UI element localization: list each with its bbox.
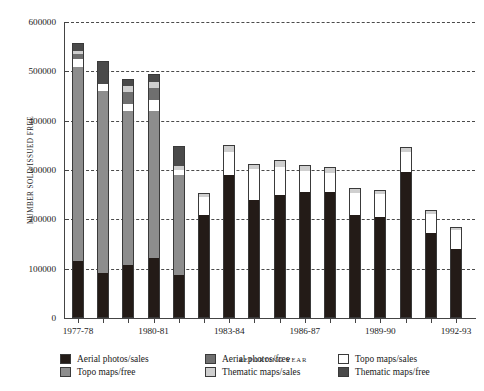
x-tick-mark xyxy=(456,318,457,323)
bar-segment-b-apf xyxy=(122,92,134,104)
bar-1989-90 xyxy=(374,190,386,318)
bar-segment-b-aps xyxy=(450,249,462,318)
x-tick-mark xyxy=(229,318,230,323)
y-tick-mark xyxy=(64,22,69,23)
y-tick-mark xyxy=(64,121,69,122)
x-tick-mark xyxy=(154,318,155,323)
legend-swatch-icon xyxy=(205,354,216,364)
bar-1990-91 xyxy=(400,147,412,318)
bar-segment-b-aps xyxy=(223,175,235,318)
bar-segment-b-thms xyxy=(274,160,286,167)
bar-segment-b-tms xyxy=(299,171,311,193)
y-tick-label: 200000 xyxy=(28,214,56,224)
bar-segment-b-aps xyxy=(173,275,185,318)
legend-item: Aerial photos/sales xyxy=(60,354,205,364)
bar-1983-84 xyxy=(223,145,235,318)
y-tick-mark xyxy=(64,219,69,220)
bar-segment-b-tmf xyxy=(148,111,160,259)
legend-label: Topo maps/sales xyxy=(355,354,417,364)
gridline xyxy=(71,71,475,72)
bar-1985-86 xyxy=(274,160,286,318)
x-tick-label: 1986-87 xyxy=(289,326,320,336)
bar-segment-b-tms xyxy=(374,194,386,217)
y-tick-label: 0 xyxy=(51,313,56,323)
bar-segment-b-tmf xyxy=(173,175,185,274)
bar-segment-b-aps xyxy=(148,258,160,318)
bar-segment-b-thmf xyxy=(97,62,109,85)
x-tick-mark xyxy=(330,318,331,323)
legend-item: Aerial photos/free xyxy=(205,354,338,364)
bar-1988-89 xyxy=(349,188,361,318)
bar-chart: NUMBER SOLD/ISSUED FREE 0100000200000300… xyxy=(0,0,484,391)
x-tick-mark xyxy=(254,318,255,323)
x-tick-label: 1983-84 xyxy=(214,326,245,336)
legend-label: Thematic maps/sales xyxy=(222,367,300,377)
x-tick-mark xyxy=(406,318,407,323)
bar-1977-78 xyxy=(72,43,84,318)
bar-segment-b-aps xyxy=(97,273,109,318)
bar-segment-b-aps xyxy=(349,215,361,318)
y-tick-label: 400000 xyxy=(28,116,56,126)
legend-item: Thematic maps/free xyxy=(338,367,458,377)
bar-1992-93 xyxy=(450,227,462,318)
x-tick-mark xyxy=(128,318,129,323)
bar-segment-b-aps xyxy=(72,261,84,318)
legend-label: Aerial photos/sales xyxy=(77,354,149,364)
y-tick-mark xyxy=(64,71,69,72)
bar-segment-b-tms xyxy=(148,100,160,111)
x-tick-mark xyxy=(305,318,306,323)
bar-segment-b-thmf xyxy=(148,74,160,82)
legend-label: Aerial photos/free xyxy=(222,354,290,364)
x-tick-mark xyxy=(103,318,104,323)
x-tick-label: 1992-93 xyxy=(441,326,472,336)
x-axis-line xyxy=(64,318,476,319)
legend-row: Aerial photos/sales Aerial photos/free T… xyxy=(60,354,460,364)
bar-segment-b-tms xyxy=(425,214,437,233)
bar-segment-b-aps xyxy=(248,200,260,318)
bar-segment-b-tms xyxy=(349,193,361,215)
bar-segment-b-tms xyxy=(97,84,109,91)
x-tick-label: 1977-78 xyxy=(63,326,94,336)
legend-item: Topo maps/free xyxy=(60,367,205,377)
bar-segment-b-tmf xyxy=(97,91,109,273)
bar-segment-b-thmf xyxy=(72,43,84,51)
bar-1991-92 xyxy=(425,210,437,318)
y-tick-mark xyxy=(64,318,69,319)
legend-label: Thematic maps/free xyxy=(355,367,430,377)
x-tick-label: 1989-90 xyxy=(365,326,396,336)
bar-segment-b-aps xyxy=(400,172,412,318)
x-tick-label: 1980-81 xyxy=(138,326,169,336)
x-tick-mark xyxy=(355,318,356,323)
x-tick-mark xyxy=(179,318,180,323)
bar-segment-b-tms xyxy=(450,230,462,249)
bar-segment-b-aps xyxy=(324,192,336,318)
bar-1980-81 xyxy=(148,74,160,318)
legend-swatch-icon xyxy=(60,354,71,364)
legend: Aerial photos/sales Aerial photos/free T… xyxy=(60,354,460,380)
bar-segment-b-thmf xyxy=(173,146,185,166)
gridline xyxy=(71,22,475,23)
y-tick-label: 600000 xyxy=(28,17,56,27)
bar-segment-b-tmf xyxy=(72,67,84,261)
bar-segment-b-tmf xyxy=(122,111,134,265)
bar-segment-b-tms xyxy=(122,104,134,111)
bar-segment-b-thmf xyxy=(122,79,134,86)
bar-segment-b-tms xyxy=(274,167,286,196)
bar-1984-85 xyxy=(248,164,260,318)
y-tick-mark xyxy=(64,269,69,270)
bar-segment-b-tms xyxy=(198,197,210,215)
bar-segment-b-aps xyxy=(122,265,134,318)
bar-segment-b-aps xyxy=(374,217,386,318)
x-tick-mark xyxy=(78,318,79,323)
bar-segment-b-aps xyxy=(198,215,210,318)
legend-row: Topo maps/free Thematic maps/sales Thema… xyxy=(60,367,460,377)
bar-segment-b-tms xyxy=(400,152,412,172)
y-tick-label: 300000 xyxy=(28,165,56,175)
legend-item: Topo maps/sales xyxy=(338,354,458,364)
bar-segment-b-tms xyxy=(324,173,336,192)
bar-segment-b-tms xyxy=(248,169,260,200)
legend-label: Topo maps/free xyxy=(77,367,135,377)
plot-area: 0100000200000300000400000500000600000 19… xyxy=(71,22,475,318)
bar-segment-b-tms xyxy=(223,152,235,176)
y-tick-mark xyxy=(64,170,69,171)
